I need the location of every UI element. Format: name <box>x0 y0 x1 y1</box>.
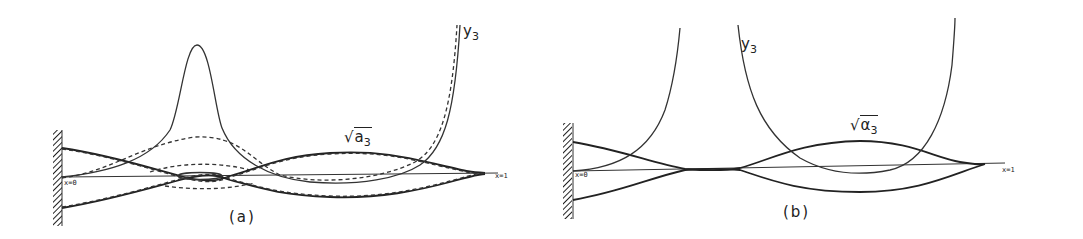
x-axis <box>573 163 1005 171</box>
lower-envelope-dashed <box>62 173 485 207</box>
inner-dashed-upper <box>150 164 250 172</box>
panel-a: y3 √a3 x=0 x=1 (a) <box>0 0 540 239</box>
y3-curve-solid <box>62 25 460 183</box>
panel-b-plot <box>540 0 1083 239</box>
label-x1: x=1 <box>1002 166 1015 174</box>
label-sqrt-a3: √a3 <box>344 128 372 149</box>
fixed-wall-hatch <box>563 123 572 219</box>
label-x0: x=0 <box>575 171 588 179</box>
caption-b: (b) <box>783 203 810 221</box>
upper-envelope-curve <box>573 141 985 170</box>
lower-envelope-curve <box>62 174 485 208</box>
panel-b: y3 √α3 x=0 x=1 (b) <box>540 0 1083 239</box>
label-y3: y3 <box>741 35 757 56</box>
label-x0: x=0 <box>64 179 77 187</box>
y3-curve-left-branch <box>573 28 680 171</box>
fixed-wall-hatch <box>53 130 62 226</box>
label-y3: y3 <box>463 22 479 43</box>
label-sqrt-alpha3: √α3 <box>850 116 878 137</box>
label-x1: x=1 <box>495 172 508 180</box>
y3-curve-right-branch <box>738 18 955 173</box>
caption-a: (a) <box>229 208 256 226</box>
panel-a-plot <box>0 0 540 239</box>
